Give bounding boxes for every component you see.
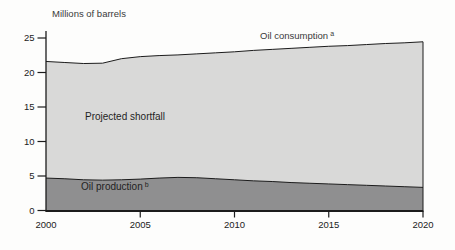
y-axis-ticks: 0510152025: [24, 32, 46, 216]
x-tick-label: 2005: [130, 219, 151, 230]
y-tick-label: 5: [29, 170, 34, 181]
y-tick-label: 0: [29, 205, 34, 216]
shortfall-label: Projected shortfall: [85, 111, 165, 122]
chart-figure: 0510152025 20002005201020152020 Millions…: [0, 0, 455, 250]
oil-supply-demand-chart: 0510152025 20002005201020152020 Millions…: [0, 0, 455, 250]
x-tick-label: 2010: [224, 219, 245, 230]
x-tick-label: 2020: [412, 219, 433, 230]
x-axis-ticks: 20002005201020152020: [35, 211, 433, 230]
y-tick-label: 20: [24, 67, 35, 78]
y-axis-title: Millions of barrels: [52, 8, 126, 19]
y-tick-label: 10: [24, 136, 35, 147]
y-tick-label: 15: [24, 101, 35, 112]
production-label: Oil productionb: [81, 181, 149, 193]
x-tick-label: 2015: [318, 219, 339, 230]
consumption-label: Oil consumptiona: [260, 30, 334, 42]
x-tick-label: 2000: [35, 219, 56, 230]
y-tick-label: 25: [24, 32, 35, 43]
